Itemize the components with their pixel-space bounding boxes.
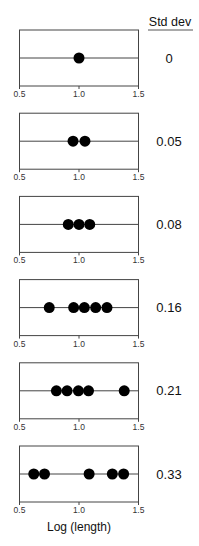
data-point: [62, 385, 73, 396]
std-dev-value: 0.33: [156, 467, 181, 482]
x-tick-label: 1.5: [133, 255, 145, 265]
data-point: [84, 219, 95, 230]
data-point: [107, 469, 118, 480]
x-tick-label: 1.0: [73, 339, 85, 349]
data-point: [118, 469, 129, 480]
data-point: [51, 385, 62, 396]
panels-group: 0.51.01.500.51.01.50.050.51.01.50.080.51…: [14, 30, 182, 515]
x-tick-label: 1.0: [73, 172, 85, 182]
x-tick-label: 1.0: [73, 422, 85, 432]
panel-5: 0.51.01.50.21: [14, 363, 182, 432]
std-dev-dot-panels-chart: Std dev 0.51.01.500.51.01.50.050.51.01.5…: [0, 0, 199, 546]
data-point: [74, 219, 85, 230]
std-dev-value: 0.16: [156, 300, 181, 315]
data-point: [68, 302, 79, 313]
data-point: [74, 53, 85, 64]
x-tick-label: 1.5: [133, 172, 145, 182]
panel-1: 0.51.01.50: [14, 30, 173, 99]
panel-4: 0.51.01.50.16: [14, 280, 182, 349]
x-tick-label: 1.0: [73, 89, 85, 99]
x-tick-label: 1.5: [133, 89, 145, 99]
x-axis-label: Log (length): [47, 520, 111, 534]
data-point: [90, 302, 101, 313]
std-dev-header: Std dev: [149, 15, 192, 29]
data-point: [79, 136, 90, 147]
panel-2: 0.51.01.50.05: [14, 113, 182, 182]
panel-3: 0.51.01.50.08: [14, 196, 182, 265]
data-point: [119, 385, 130, 396]
std-dev-value: 0: [165, 51, 172, 66]
data-point: [73, 385, 84, 396]
data-point: [79, 302, 90, 313]
panel-6: 0.51.01.50.33: [14, 446, 182, 515]
x-tick-label: 0.5: [14, 89, 26, 99]
data-point: [28, 469, 39, 480]
x-tick-label: 0.5: [14, 172, 26, 182]
std-dev-value: 0.05: [156, 134, 181, 149]
data-point: [68, 136, 79, 147]
x-tick-label: 0.5: [14, 339, 26, 349]
data-point: [63, 219, 74, 230]
std-dev-value: 0.08: [156, 217, 181, 232]
x-tick-label: 0.5: [14, 422, 26, 432]
data-point: [83, 385, 94, 396]
x-tick-label: 0.5: [14, 255, 26, 265]
data-point: [84, 469, 95, 480]
x-tick-label: 0.5: [14, 505, 26, 515]
std-dev-value: 0.21: [156, 383, 181, 398]
data-point: [39, 469, 50, 480]
data-point: [101, 302, 112, 313]
x-tick-label: 1.5: [133, 422, 145, 432]
x-tick-label: 1.0: [73, 255, 85, 265]
data-point: [44, 302, 55, 313]
x-tick-label: 1.5: [133, 339, 145, 349]
x-tick-label: 1.0: [73, 505, 85, 515]
x-tick-label: 1.5: [133, 505, 145, 515]
